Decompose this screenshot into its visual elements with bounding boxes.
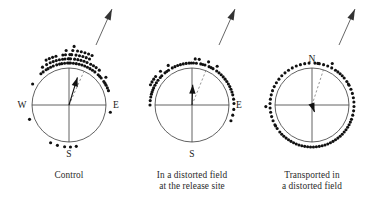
bearing-dot xyxy=(216,65,219,68)
bearing-dot xyxy=(179,63,182,66)
bearing-dot xyxy=(352,105,355,108)
bearing-dot xyxy=(300,144,303,147)
bearing-dot xyxy=(297,143,300,146)
bearing-dot xyxy=(160,74,163,77)
caption-line: Control xyxy=(6,170,132,181)
bearing-dot xyxy=(273,85,276,88)
bearing-dot xyxy=(232,108,235,111)
bearing-dot xyxy=(318,145,321,148)
bearing-dot xyxy=(78,54,81,57)
bearing-dot xyxy=(331,62,334,65)
bearing-dot xyxy=(56,144,59,147)
bearing-dot xyxy=(176,64,179,67)
bearing-dot xyxy=(149,83,152,86)
cardinal-label-S: S xyxy=(189,149,194,159)
bearing-dot xyxy=(69,57,72,60)
bearing-dot xyxy=(269,98,272,101)
bearing-dot xyxy=(149,95,152,98)
bearing-dot xyxy=(295,142,298,145)
bearing-dot xyxy=(106,86,109,89)
caption-line: a distorted field xyxy=(249,181,375,192)
bearing-dot xyxy=(75,62,78,65)
bearing-dot xyxy=(156,79,159,82)
bearing-dot xyxy=(270,115,273,118)
caption-line: In a distorted field xyxy=(129,170,255,181)
bearing-dot xyxy=(73,45,76,48)
plot-group-0: WES xyxy=(18,9,120,159)
bearing-dot xyxy=(74,54,77,57)
bearing-dot xyxy=(152,78,155,81)
bearing-dot xyxy=(60,62,63,65)
bearing-dot xyxy=(109,111,112,114)
bearing-dot xyxy=(85,56,88,59)
bearing-dot xyxy=(92,64,95,67)
bearing-dot xyxy=(277,78,280,81)
bearing-dot xyxy=(274,124,277,127)
bearing-dot xyxy=(349,121,352,124)
bearing-dot xyxy=(64,53,67,56)
bearing-dot xyxy=(55,59,58,62)
bearing-dot xyxy=(75,145,78,148)
bearing-dot xyxy=(80,50,83,53)
plot-group-1: ES xyxy=(148,9,242,159)
bearing-dot xyxy=(86,61,89,64)
bearing-dot xyxy=(343,76,346,79)
bearing-dot xyxy=(272,119,275,122)
bearing-dot xyxy=(185,62,188,65)
bearing-dot xyxy=(69,61,72,64)
bearing-dot xyxy=(150,80,153,83)
dashed-home-direction xyxy=(69,71,84,105)
bearing-dot xyxy=(349,88,352,91)
bearing-dot xyxy=(73,58,76,61)
mean-vector-head xyxy=(72,77,78,87)
panel-transported-in-distorted-field: N Transported ina distorted field xyxy=(249,0,375,204)
bearing-dot xyxy=(230,90,233,93)
bearing-dot xyxy=(195,62,198,65)
bearing-dot xyxy=(278,130,281,133)
bearing-dot xyxy=(306,145,309,148)
bearing-dot xyxy=(326,65,329,68)
bearing-dot xyxy=(91,54,94,57)
bearing-dot xyxy=(45,63,48,66)
bearing-dot xyxy=(79,59,82,62)
bearing-dot xyxy=(194,57,197,60)
bearing-dot xyxy=(149,99,152,102)
bearing-dot xyxy=(83,51,86,54)
bearing-dot xyxy=(70,53,73,56)
bearing-dot xyxy=(49,141,52,144)
bearing-dot xyxy=(41,66,44,69)
bearing-dot xyxy=(63,57,66,60)
bearing-dot xyxy=(198,58,201,61)
bearing-dot xyxy=(323,143,326,146)
bearing-dot xyxy=(283,71,286,74)
bearing-dot xyxy=(229,119,232,122)
bearing-dot xyxy=(229,88,232,91)
panel-transported-caption: Transported ina distorted field xyxy=(249,170,375,192)
bearing-dot xyxy=(275,81,278,84)
cardinal-label-E: E xyxy=(236,100,242,110)
bearing-dot xyxy=(228,85,231,88)
bearing-dot xyxy=(82,60,85,63)
bearing-dot xyxy=(271,89,274,92)
bearing-dot xyxy=(321,144,324,147)
bearing-dot xyxy=(303,145,306,148)
bearing-dot xyxy=(95,66,98,69)
cardinal-label-S: S xyxy=(66,149,71,159)
bearing-dot xyxy=(182,62,185,65)
bearing-dot xyxy=(48,57,51,60)
bearing-dot xyxy=(303,62,306,65)
bearing-dot xyxy=(98,69,101,72)
bearing-dot xyxy=(31,82,34,85)
bearing-dot xyxy=(76,58,79,61)
bearing-dot xyxy=(55,63,58,66)
dashed-home-direction xyxy=(312,70,323,105)
bearing-dot xyxy=(167,69,170,72)
bearing-dot xyxy=(351,114,354,117)
bearing-dot xyxy=(63,145,66,148)
bearing-dot xyxy=(312,145,315,148)
bearing-dot xyxy=(264,105,267,108)
plot-group-2: N xyxy=(264,9,355,149)
bearing-dot xyxy=(173,65,176,68)
bearing-dot xyxy=(322,63,325,66)
bearing-dot xyxy=(78,63,81,66)
